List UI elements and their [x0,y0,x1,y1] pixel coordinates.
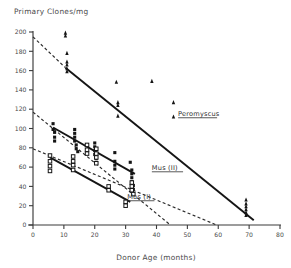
data-point-open-square [71,168,75,172]
axes-layer [28,31,281,225]
data-point-filled-square [73,128,76,131]
data-point-triangle [172,100,175,104]
data-point-triangle [172,114,175,118]
series-points-peromyscus [64,30,248,217]
y-tick-label: 160 [15,67,27,74]
series-label-mus-ii: Mus (II) [152,164,178,172]
data-point-filled-square [130,172,133,175]
title-layer: Primary Clones/mg [14,7,88,16]
data-point-filled-square [130,168,133,171]
data-point-filled-square [113,164,116,167]
data-point-filled-square [76,150,79,153]
data-point-filled-square [53,136,56,139]
x-axis-title-layer: Donor Age (months) [116,253,196,262]
data-point-open-square [71,155,75,159]
data-point-open-square [71,163,75,167]
data-point-open-square [130,181,134,185]
data-point-open-square [95,161,99,165]
data-point-triangle [150,79,153,83]
y-tick-label: 120 [15,105,27,112]
x-tick-label: 20 [91,231,99,238]
data-points-layer [48,30,248,217]
data-point-filled-square [52,128,55,131]
data-point-filled-square [53,131,56,134]
data-point-open-square [95,156,99,160]
y-tick-label: 200 [15,28,27,35]
data-point-open-square [48,169,52,173]
data-point-triangle [65,51,68,55]
data-point-filled-square [113,167,116,170]
x-tick-label: 70 [245,231,253,238]
data-point-filled-square [113,160,116,163]
y-tick-label: 180 [15,48,27,55]
series-label-mus-i: Mus (I) [127,193,151,201]
x-tick-label: 30 [122,231,130,238]
y-tick-label: 140 [15,86,27,93]
data-point-open-square [48,160,52,164]
series-label-peromyscus: Peromyscus [178,110,220,118]
chart-figure: Primary Clones/mg 0204060801001201401601… [0,0,291,268]
regression-line-dashed [33,149,217,225]
data-point-filled-square [130,176,133,179]
y-tick-label: 20 [19,202,27,209]
x-axis-title: Donor Age (months) [116,253,196,262]
y-tick-label: 40 [19,183,27,190]
data-point-open-square [48,154,52,158]
x-tick-label: 50 [183,231,191,238]
data-point-open-square [85,143,89,147]
data-point-filled-square [93,141,96,144]
data-point-filled-square [73,139,76,142]
data-point-triangle [116,113,119,117]
chart-title: Primary Clones/mg [14,7,88,16]
data-point-open-square [71,160,75,164]
y-tick-label: 80 [19,144,27,151]
data-point-open-square [85,148,89,152]
data-point-open-square [130,189,134,193]
y-tick-label: 60 [19,163,27,170]
data-point-open-square [107,189,111,193]
data-point-triangle [115,80,118,84]
x-tick-label: 60 [214,231,222,238]
data-point-filled-square [73,136,76,139]
data-point-open-square [95,152,99,156]
data-point-open-square [95,147,99,151]
x-tick-label: 40 [153,231,161,238]
y-tick-label: 0 [23,221,27,228]
data-point-open-square [107,185,111,189]
data-point-filled-square [73,132,76,135]
scatter-plot-canvas: Primary Clones/mg 0204060801001201401601… [0,0,291,268]
data-point-filled-square [113,151,116,154]
y-tick-label: 100 [15,125,27,132]
data-point-triangle [244,197,247,201]
x-tick-label: 0 [31,231,35,238]
data-point-filled-square [129,161,132,164]
data-point-filled-square [53,139,56,142]
data-point-open-square [48,164,52,168]
data-point-filled-square [52,122,55,125]
data-point-open-square [130,185,134,189]
regression-line-dashed [33,37,65,68]
data-point-open-square [124,204,128,208]
x-tick-label: 10 [60,231,68,238]
data-point-open-square [85,152,89,156]
x-tick-label: 80 [276,231,284,238]
data-point-filled-square [75,147,78,150]
data-point-filled-square [75,143,78,146]
